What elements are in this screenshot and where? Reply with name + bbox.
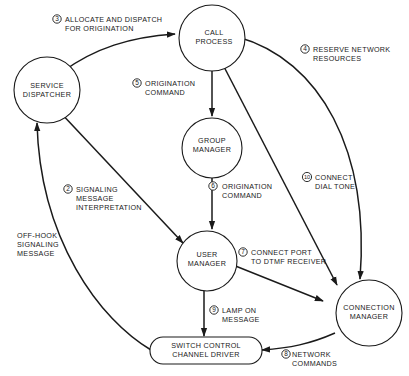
edge-label-connect-port: 7 CONNECT PORT TO DTMF RECEIVER bbox=[239, 248, 327, 266]
node-label-line2: PROCESS bbox=[195, 37, 232, 46]
edge-label-line2: SIGNALING bbox=[17, 240, 59, 249]
edge-reserve-network bbox=[238, 37, 361, 279]
step-number: 7 bbox=[241, 248, 245, 255]
step-number: 6 bbox=[211, 182, 215, 189]
edge-label-off-hook: OFF-HOOK SIGNALING MESSAGE bbox=[17, 231, 59, 258]
edge-label-line1: ORIGINATION bbox=[145, 79, 195, 88]
edge-connect-port bbox=[233, 265, 323, 301]
edge-allocate-dispatch bbox=[62, 34, 175, 72]
node-user-manager: USER MANAGER bbox=[177, 231, 237, 291]
node-label-line1: CONNECTION bbox=[343, 303, 394, 312]
step-number: 5 bbox=[135, 79, 139, 86]
node-call-process: CALL PROCESS bbox=[179, 5, 245, 71]
edge-label-network-commands: 8 NETWORK COMMANDS bbox=[282, 350, 337, 368]
call-flow-diagram: SERVICE DISPATCHER CALL PROCESS GROUP MA… bbox=[0, 0, 409, 376]
edge-label-line2: TO DTMF RECEIVER bbox=[251, 257, 326, 266]
node-label-line1: SWITCH CONTROL bbox=[171, 341, 241, 350]
step-number: 4 bbox=[303, 45, 307, 52]
edge-label-line1: OFF-HOOK bbox=[17, 231, 57, 240]
edge-label-line2: RESOURCES bbox=[313, 54, 361, 63]
edge-label-line3: MESSAGE bbox=[17, 249, 55, 258]
node-service-dispatcher: SERVICE DISPATCHER bbox=[14, 57, 80, 123]
edge-label-line1: SIGNALING bbox=[76, 185, 118, 194]
edge-label-line1: ALLOCATE AND DISPATCH bbox=[65, 15, 162, 24]
node-label-line1: SERVICE bbox=[30, 81, 64, 90]
edge-label-origination-5: 5 ORIGINATION COMMAND bbox=[133, 79, 195, 97]
edge-label-line2: COMMAND bbox=[145, 88, 185, 97]
step-number: 9 bbox=[212, 306, 216, 313]
node-label-line1: CALL bbox=[204, 28, 223, 37]
edge-label-allocate: 3 ALLOCATE AND DISPATCH FOR ORIGINATION bbox=[53, 15, 163, 33]
edge-label-line2: COMMANDS bbox=[292, 359, 337, 368]
edge-label-line1: ORIGINATION bbox=[222, 182, 272, 191]
edge-label-line2: FOR ORIGINATION bbox=[65, 24, 134, 33]
edge-network-commands bbox=[262, 333, 335, 350]
edge-label-line1: LAMP ON bbox=[222, 306, 256, 315]
edge-signaling-interpretation bbox=[59, 111, 183, 243]
edge-label-line2: DIAL TONE bbox=[315, 182, 355, 191]
node-label-line1: USER bbox=[196, 250, 217, 259]
edge-label-line1: CONNECT PORT bbox=[251, 248, 312, 257]
edge-label-line3: INTERPRETATION bbox=[76, 203, 142, 212]
node-label-line2: MANAGER bbox=[188, 259, 226, 268]
node-group-manager: GROUP MANAGER bbox=[182, 118, 242, 178]
edge-label-origination-6: 6 ORIGINATION COMMAND bbox=[209, 182, 272, 200]
edge-label-dial-tone: 10 CONNECT DIAL TONE bbox=[302, 172, 355, 191]
node-label-line2: DISPATCHER bbox=[23, 90, 71, 99]
node-label-line2: CHANNEL DRIVER bbox=[172, 350, 239, 359]
node-label-line2: MANAGER bbox=[193, 145, 231, 154]
edge-label-lamp-on: 9 LAMP ON MESSAGE bbox=[210, 306, 260, 324]
step-number: 10 bbox=[304, 174, 310, 180]
node-label-line2: MANAGER bbox=[350, 312, 388, 321]
edge-label-line1: CONNECT bbox=[315, 173, 353, 182]
step-number: 3 bbox=[55, 15, 59, 22]
edge-label-signaling: 2 SIGNALING MESSAGE INTERPRETATION bbox=[64, 185, 142, 212]
edge-label-line1: RESERVE NETWORK bbox=[313, 45, 390, 54]
node-switch-control-channel-driver: SWITCH CONTROL CHANNEL DRIVER bbox=[150, 337, 262, 364]
step-number: 2 bbox=[66, 185, 70, 192]
edge-label-line2: MESSAGE bbox=[76, 194, 114, 203]
node-connection-manager: CONNECTION MANAGER bbox=[336, 280, 402, 346]
edge-label-line2: MESSAGE bbox=[222, 315, 260, 324]
edge-label-reserve: 4 RESERVE NETWORK RESOURCES bbox=[301, 45, 391, 63]
node-label-line1: GROUP bbox=[198, 136, 226, 145]
edge-label-line1: NETWORK bbox=[292, 350, 331, 359]
edge-label-line2: COMMAND bbox=[222, 191, 262, 200]
step-number: 8 bbox=[284, 350, 288, 357]
